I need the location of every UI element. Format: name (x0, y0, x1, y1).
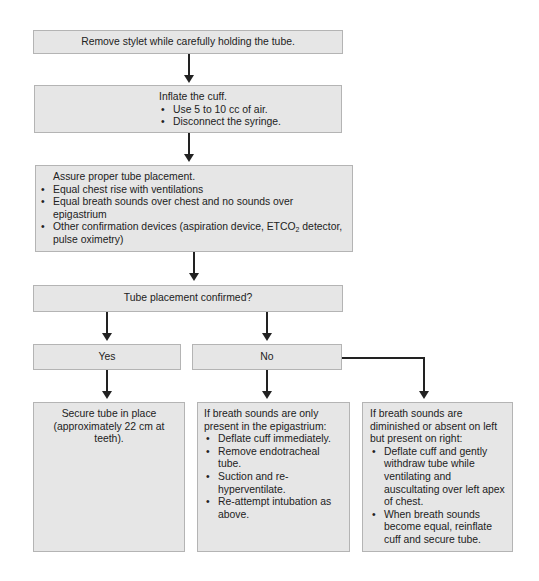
bullet-item: Equal chest rise with ventilations (39, 184, 346, 197)
bullet-item: Equal breath sounds over chest and no so… (39, 196, 346, 221)
step-inflate-cuff-title: Inflate the cuff. (159, 91, 341, 104)
outcome-right-only-title: If breath sounds are diminished or absen… (370, 408, 508, 446)
branch-no-label: No (260, 351, 273, 362)
connector-decision-no (266, 312, 268, 334)
bullet-item: Suction and re-hyperventilate. (204, 471, 345, 496)
connector-1-2 (188, 54, 190, 76)
step-assure-placement-bullets: Equal chest rise with ventilations Equal… (39, 184, 346, 247)
arrowhead-icon (189, 273, 199, 281)
bullet-item: Other confirmation devices (aspiration d… (39, 221, 346, 246)
bullet-item: Deflate cuff and gently withdraw tube wh… (370, 446, 508, 509)
outcome-secure-tube: Secure tube in place (approximately 22 c… (33, 402, 185, 552)
connector-no-right-v (423, 357, 425, 392)
bullet-item: Disconnect the syringe. (159, 116, 341, 129)
branch-no: No (192, 344, 342, 370)
bullet-item: Deflate cuff immediately. (204, 433, 345, 446)
connector-decision-yes (106, 312, 108, 334)
connector-2-3 (188, 133, 190, 155)
bullet-item: Remove endotracheal tube. (204, 446, 345, 471)
outcome-secure-tube-text: Secure tube in place (approximately 22 c… (54, 408, 165, 444)
outcome-epigastrium-title: If breath sounds are only present in the… (204, 408, 345, 433)
connector-yes-outcome (106, 370, 108, 392)
branch-yes-label: Yes (99, 351, 116, 362)
outcome-epigastrium: If breath sounds are only present in the… (197, 402, 350, 552)
arrowhead-icon (102, 333, 112, 341)
connector-no-epigastrium (266, 370, 268, 392)
step-inflate-cuff: Inflate the cuff. Use 5 to 10 cc of air.… (34, 85, 342, 133)
outcome-epigastrium-bullets: Deflate cuff immediately. Remove endotra… (204, 433, 345, 521)
arrowhead-icon (262, 333, 272, 341)
step-remove-stylet: Remove stylet while carefully holding th… (33, 30, 343, 54)
decision-text: Tube placement confirmed? (124, 292, 252, 303)
connector-3-4 (193, 252, 195, 274)
bullet-item: Use 5 to 10 cc of air. (159, 104, 341, 117)
outcome-right-only-bullets: Deflate cuff and gently withdraw tube wh… (370, 446, 508, 547)
bullet-item: When breath sounds become equal, reinfla… (370, 509, 508, 547)
connector-no-right-h (342, 357, 424, 359)
branch-yes: Yes (33, 344, 181, 370)
bullet-item: Re-attempt intubation as above. (204, 496, 345, 521)
outcome-right-only: If breath sounds are diminished or absen… (362, 402, 513, 552)
arrowhead-icon (102, 391, 112, 399)
step-assure-placement-title: Assure proper tube placement. (53, 171, 346, 184)
arrowhead-icon (419, 391, 429, 399)
decision-placement-confirmed: Tube placement confirmed? (33, 285, 343, 312)
step-inflate-cuff-bullets: Use 5 to 10 cc of air. Disconnect the sy… (159, 104, 341, 129)
arrowhead-icon (262, 391, 272, 399)
arrowhead-icon (184, 154, 194, 162)
step-assure-placement: Assure proper tube placement. Equal ches… (35, 165, 353, 252)
arrowhead-icon (184, 75, 194, 83)
step-remove-stylet-text: Remove stylet while carefully holding th… (81, 36, 295, 47)
